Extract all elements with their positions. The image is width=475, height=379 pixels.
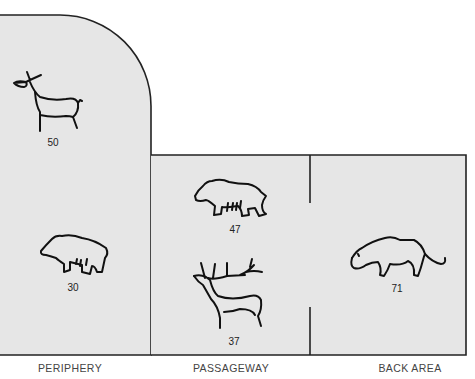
back-area-label: BACK AREA: [378, 362, 441, 374]
back-area-zone: [310, 155, 466, 355]
periphery-label: PERIPHERY: [38, 362, 102, 374]
ibex-count: 50: [47, 137, 58, 148]
stag-count: 37: [228, 336, 239, 347]
passageway-label: PASSAGEWAY: [193, 362, 269, 374]
bear-count: 30: [67, 282, 78, 293]
bison-count: 47: [229, 224, 240, 235]
lion-count: 71: [391, 283, 402, 294]
periphery-zone: [0, 15, 151, 355]
passageway-zone: [151, 155, 310, 355]
cave-floor-plan: [0, 0, 475, 379]
